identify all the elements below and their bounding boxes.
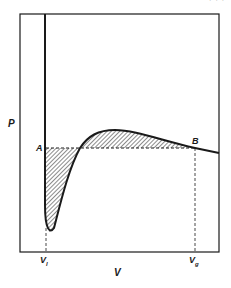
point-b-label: B [192,137,199,146]
vg-label-sub: g [195,261,199,267]
point-a-label: A [36,144,43,153]
corner-text: · · · [209,0,225,4]
vl-label-sub: l [46,261,48,267]
x-axis-label: V [114,268,121,278]
vg-label: Vg [189,256,199,267]
vl-label: Vl [40,256,48,267]
y-axis-label: P [8,119,15,129]
isotherm-curve [45,14,219,230]
